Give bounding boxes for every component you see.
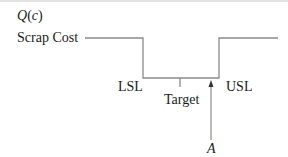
target-label: Target [164, 93, 199, 107]
arrow-head-icon [209, 80, 214, 87]
point-a-label: A [207, 142, 216, 156]
loss-function-line [85, 38, 278, 78]
usl-label: USL [226, 80, 252, 94]
lsl-label: LSL [118, 80, 143, 94]
